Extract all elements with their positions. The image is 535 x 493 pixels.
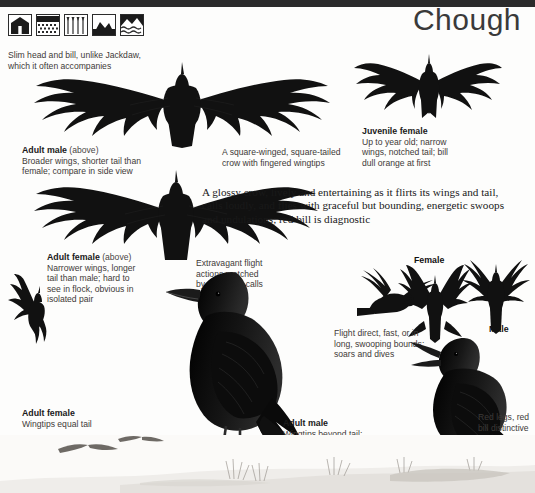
artwork-male-flight — [452, 258, 535, 334]
label-female: Female — [414, 255, 444, 265]
caption-adult-female-flight-title: Adult female — [47, 252, 100, 262]
species-description: A glossy crow, lively and entertaining a… — [202, 186, 512, 226]
caption-juvenile-female-text: Up to year old; narrow wings, notched ta… — [362, 137, 448, 168]
caption-adult-male-flight-title: Adult male — [22, 145, 67, 155]
ground-scene — [0, 435, 535, 493]
page-title: Chough — [413, 3, 521, 37]
artwork-chough-banking — [6, 272, 62, 352]
caption-adult-female-perched-text: Wingtips equal tail — [22, 419, 92, 429]
coast-habitat-icon — [120, 14, 144, 36]
artwork-adult-male-flight — [18, 58, 338, 148]
grassland-habitat-icon — [64, 14, 88, 36]
caption-adult-male-perched-title: Adult male — [283, 418, 328, 428]
farmland-habitat-icon — [36, 14, 60, 36]
caption-adult-female-perched-title: Adult female — [22, 408, 75, 418]
habitat-icon-row — [8, 14, 144, 36]
caption-red-legs: Red legs, red bill distinctive — [478, 412, 535, 433]
caption-adult-male-flight-suffix: (above) — [69, 145, 98, 155]
caption-adult-female-perched: Adult female Wingtips equal tail — [22, 408, 142, 429]
buildings-habitat-icon — [8, 14, 32, 36]
field-guide-page: Chough — [0, 0, 535, 493]
caption-juvenile-female-title: Juvenile female — [362, 126, 428, 136]
caption-juvenile-female: Juvenile female Up to year old; narrow w… — [362, 126, 482, 168]
artwork-juvenile-female — [352, 52, 502, 124]
caption-adult-female-flight-suffix: (above) — [102, 252, 131, 262]
caption-square-winged: A square-winged, square-tailed crow with… — [222, 147, 372, 168]
mountain-habitat-icon — [92, 14, 116, 36]
